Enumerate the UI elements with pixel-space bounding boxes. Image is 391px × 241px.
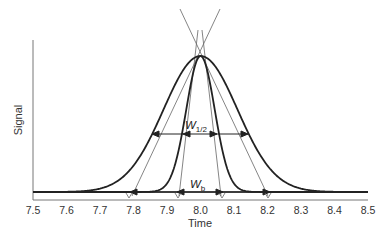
baseline-intercept-markers <box>126 193 271 198</box>
x-tick-label: 8.1 <box>227 204 242 216</box>
x-tick-label: 7.8 <box>126 204 141 216</box>
x-tick-label: 8.5 <box>361 204 376 216</box>
x-tick-label: 8.4 <box>327 204 342 216</box>
narrow-peak-curve <box>33 56 368 192</box>
x-axis-title: Time <box>188 217 212 229</box>
x-tick-labels: 7.57.67.77.87.98.08.18.28.38.48.5 <box>26 204 376 216</box>
x-tick-label: 8.0 <box>193 204 208 216</box>
x-tick-label: 7.9 <box>160 204 175 216</box>
x-tick-label: 8.3 <box>294 204 309 216</box>
x-tick-label: 7.6 <box>59 204 74 216</box>
w-base-label: Wb <box>190 178 206 193</box>
chart-canvas: 7.57.67.77.87.98.08.18.28.38.48.5 Time S… <box>0 0 391 241</box>
tangent-lines <box>132 9 268 196</box>
broad-peak-curve <box>33 56 368 192</box>
x-tick-label: 7.7 <box>93 204 108 216</box>
x-tick-label: 7.5 <box>26 204 41 216</box>
x-tick-label: 8.2 <box>260 204 275 216</box>
y-axis-title: Signal <box>12 105 24 136</box>
